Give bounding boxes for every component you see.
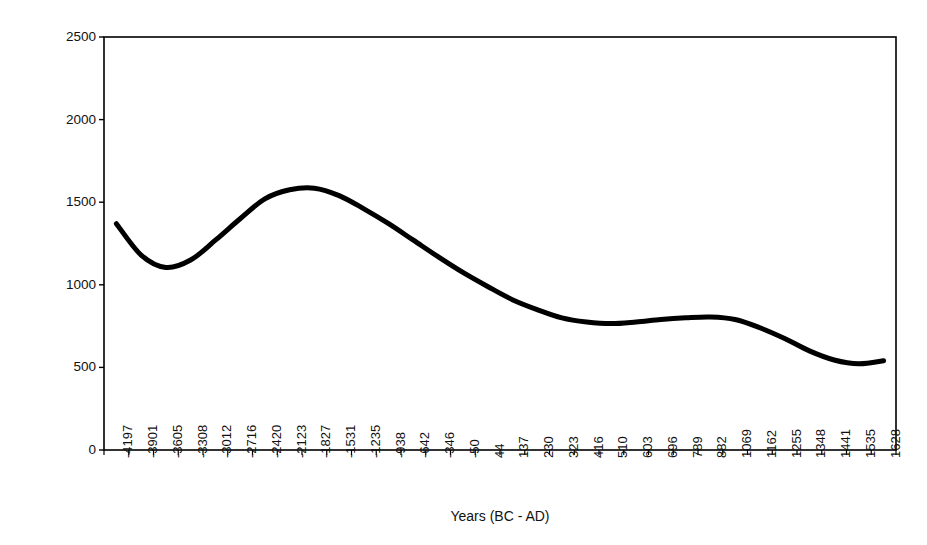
plot-area (0, 0, 927, 545)
x-tick-label: 44 (493, 444, 506, 458)
x-tick-label: -346 (443, 432, 456, 458)
x-axis-title: Years (BC - AD) (104, 508, 896, 524)
x-tick-label: -2716 (245, 425, 258, 458)
x-tick-label: -1235 (369, 425, 382, 458)
x-tick-label: -3605 (171, 425, 184, 458)
x-tick-label: 230 (542, 436, 555, 458)
x-tick-label: 1535 (864, 429, 877, 458)
x-tick-label: 323 (567, 436, 580, 458)
x-tick-label: 510 (616, 436, 629, 458)
x-tick-label: 1069 (740, 429, 753, 458)
x-tick-label: -3308 (196, 425, 209, 458)
x-tick-label: -642 (418, 432, 431, 458)
x-tick-label: 789 (691, 436, 704, 458)
x-tick-label: 1441 (839, 429, 852, 458)
x-tick-label: 696 (666, 436, 679, 458)
x-tick-label: -3012 (220, 425, 233, 458)
x-tick-label: 137 (517, 436, 530, 458)
x-tick-label: -1531 (344, 425, 357, 458)
x-tick-label: 1255 (790, 429, 803, 458)
x-tick-label: 1628 (889, 429, 902, 458)
x-tick-label: 1348 (814, 429, 827, 458)
x-tick-label: -2420 (270, 425, 283, 458)
plot-frame (104, 37, 896, 450)
x-tick-label: 416 (592, 436, 605, 458)
x-tick-label: -3901 (146, 425, 159, 458)
x-tick-label: 603 (641, 436, 654, 458)
x-tick-label: -2123 (295, 425, 308, 458)
x-tick-label: 882 (715, 436, 728, 458)
x-tick-label: -1827 (319, 425, 332, 458)
chart-figure: Arboreal Pollen Count 050010001500200025… (0, 0, 927, 545)
x-tick-label: -50 (468, 439, 481, 458)
data-series-line (116, 188, 883, 364)
x-tick-label: 1162 (765, 430, 778, 458)
x-tick-label: -938 (394, 432, 407, 458)
x-tick-label: -4197 (121, 425, 134, 458)
